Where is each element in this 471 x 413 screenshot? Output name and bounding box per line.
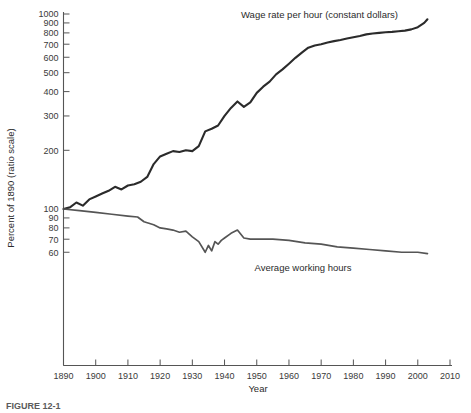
x-tick-label: 1970 bbox=[311, 371, 331, 381]
x-tick-label: 1900 bbox=[86, 371, 106, 381]
y-tick-label: 90 bbox=[48, 213, 58, 223]
x-tick-label: 1980 bbox=[343, 371, 363, 381]
y-tick-label: 900 bbox=[43, 18, 58, 28]
y-tick-label: 700 bbox=[43, 40, 58, 50]
y-tick-label: 80 bbox=[48, 223, 58, 233]
x-tick-label: 1940 bbox=[215, 371, 235, 381]
y-tick-label: 200 bbox=[43, 146, 58, 156]
hours-series-label: Average working hours bbox=[255, 262, 352, 273]
y-tick-label: 600 bbox=[43, 53, 58, 63]
x-tick-label: 2010 bbox=[440, 371, 460, 381]
figure-caption-number: FIGURE 12-1 bbox=[6, 401, 61, 411]
figure-container: 100090080070060050040030020010090807060 … bbox=[0, 0, 471, 413]
y-tick-label: 300 bbox=[43, 111, 58, 121]
x-tick-label: 1930 bbox=[182, 371, 202, 381]
x-tick-group: 1890190019101920193019401950196019701980… bbox=[53, 360, 460, 382]
y-tick-label: 800 bbox=[43, 28, 58, 38]
y-tick-label: 60 bbox=[48, 248, 58, 258]
y-tick-label: 70 bbox=[48, 235, 58, 245]
y-tick-label: 500 bbox=[43, 68, 58, 78]
x-tick-label: 1920 bbox=[150, 371, 170, 381]
figure-caption: FIGURE 12-1 bbox=[6, 401, 471, 412]
chart-canvas: 100090080070060050040030020010090807060 … bbox=[0, 0, 471, 413]
x-tick-label: 1960 bbox=[279, 371, 299, 381]
y-tick-group: 100090080070060050040030020010090807060 bbox=[38, 9, 69, 257]
x-tick-label: 1910 bbox=[118, 371, 138, 381]
x-axis-title: Year bbox=[248, 383, 267, 394]
series-group bbox=[64, 19, 428, 253]
x-tick-label: 1950 bbox=[247, 371, 267, 381]
y-axis-title: Percent of 1890 (ratio scale) bbox=[5, 128, 16, 247]
y-tick-label: 400 bbox=[43, 87, 58, 97]
x-tick-label: 2000 bbox=[408, 371, 428, 381]
wage-rate-line bbox=[64, 19, 428, 209]
wage-series-label: Wage rate per hour (constant dollars) bbox=[241, 9, 398, 20]
working-hours-line bbox=[64, 209, 428, 254]
x-tick-label: 1890 bbox=[53, 371, 73, 381]
x-tick-label: 1990 bbox=[376, 371, 396, 381]
